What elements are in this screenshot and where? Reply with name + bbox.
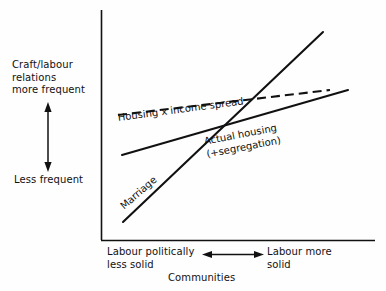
x-axis-label-left: Labour politically less solid bbox=[107, 246, 194, 271]
series-line-marriage bbox=[123, 32, 323, 222]
y-axis-label-top: Craft/labour relations more frequent bbox=[12, 59, 85, 97]
x-axis-label-right: Labour more solid bbox=[267, 246, 332, 271]
x-axis-direction-arrow bbox=[202, 251, 264, 258]
x-axis-caption: Communities bbox=[168, 272, 235, 285]
y-axis-direction-arrow bbox=[44, 102, 51, 172]
chart-figure: Craft/labour relations more frequent Les… bbox=[0, 0, 386, 291]
y-axis-label-bottom: Less frequent bbox=[14, 174, 83, 187]
